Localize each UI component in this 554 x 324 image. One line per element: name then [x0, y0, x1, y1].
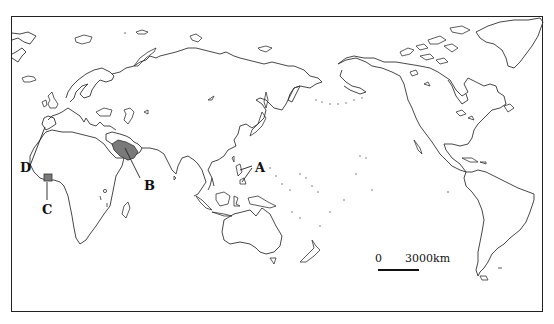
svalbard — [75, 35, 92, 44]
franz-josef-land — [136, 30, 148, 34]
philippines — [236, 164, 246, 184]
leader-line-a-1 — [240, 166, 252, 170]
leader-line-a-2 — [242, 168, 252, 182]
scale-end-label: 3000km — [405, 252, 450, 265]
iceland — [22, 76, 36, 82]
tasmania — [270, 258, 276, 264]
russian-far-east-coast — [252, 82, 322, 128]
label-b: B — [144, 178, 155, 193]
great-britain — [48, 92, 58, 108]
new-zealand — [300, 240, 320, 262]
tierra-del-fuego — [480, 276, 488, 280]
java — [212, 212, 232, 216]
lake-baikal — [208, 96, 214, 100]
new-siberian-islands — [258, 46, 272, 52]
cuba — [462, 158, 478, 162]
caspian-sea — [124, 108, 134, 124]
greenland-fragment — [12, 48, 26, 62]
great-lakes — [456, 110, 474, 120]
baja-california — [414, 140, 422, 154]
eurasia-coast — [66, 48, 322, 102]
severnaya-zemlya — [190, 34, 202, 42]
southeast-asia — [194, 178, 212, 196]
arctic-island-dot — [124, 32, 126, 34]
iberia — [42, 116, 56, 130]
sulawesi — [234, 196, 240, 206]
region-c-shaded — [44, 174, 52, 181]
lake-tanganyika — [100, 196, 101, 200]
europe-mediterranean-coast — [48, 108, 116, 130]
aleutian-islands — [315, 97, 362, 104]
alaska-peninsula — [340, 70, 366, 94]
aral-sea — [144, 110, 148, 114]
region-b-shaded — [112, 140, 138, 160]
borneo — [216, 192, 230, 206]
australia — [222, 208, 282, 254]
label-c: C — [42, 202, 52, 217]
south-america — [464, 170, 534, 276]
pacific-islands — [269, 155, 372, 226]
greenland — [476, 18, 543, 68]
sri-lanka — [174, 176, 176, 180]
greenland-east-coast — [12, 32, 36, 44]
north-america — [338, 56, 506, 172]
kamchatka — [288, 86, 300, 102]
label-a: A — [255, 160, 265, 175]
newfoundland — [504, 104, 514, 112]
ireland — [42, 100, 47, 107]
sumatra — [196, 196, 212, 210]
world-map — [0, 0, 554, 324]
scale-start-label: 0 — [375, 252, 382, 265]
africa — [30, 130, 124, 244]
new-guinea — [248, 196, 276, 208]
hispaniola — [480, 162, 486, 164]
scale-bar-line — [378, 269, 419, 271]
black-sea — [96, 108, 112, 116]
japan — [250, 112, 266, 136]
lake-victoria — [103, 189, 106, 192]
galapagos-dot — [447, 191, 449, 193]
madagascar — [122, 202, 130, 218]
label-d: D — [20, 160, 31, 175]
canadian-arctic-islands — [400, 26, 470, 86]
taiwan — [232, 156, 234, 162]
